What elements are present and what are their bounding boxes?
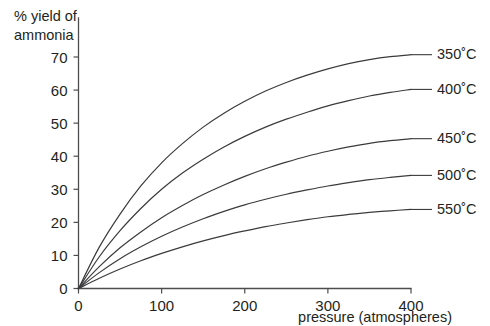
y-tick-label: 10 [51,247,68,264]
y-tick-label: 50 [51,115,68,132]
ammonia-yield-chart: 010203040506070 0100200300400 350˚C400˚C… [0,0,490,326]
y-axis-ticks: 010203040506070 [51,49,79,298]
x-axis-title: pressure (atmospheres) [298,309,452,325]
chart-series-group [79,55,412,289]
x-tick-label: 100 [149,297,174,314]
y-tick-label: 60 [51,82,68,99]
series-curve-500 [79,175,412,288]
y-axis-title-line2: ammonia [14,27,75,43]
x-tick-label: 0 [74,297,82,314]
y-tick-label: 0 [59,280,67,297]
y-tick-label: 40 [51,148,68,165]
series-label-group: 350˚C400˚C450˚C500˚C550˚C [411,46,477,217]
y-axis-title-line1: % yield of [14,8,78,24]
y-tick-label: 30 [51,181,68,198]
y-tick-label: 70 [51,49,68,66]
series-label-500: 500˚C [437,167,477,183]
series-label-350: 350˚C [437,46,477,62]
x-tick-label: 200 [232,297,257,314]
series-label-450: 450˚C [437,130,477,146]
series-label-550: 550˚C [437,201,477,217]
series-label-400: 400˚C [437,81,477,97]
chart-axes [78,18,411,289]
chart-canvas: 010203040506070 0100200300400 350˚C400˚C… [0,0,490,326]
series-curve-400 [79,89,412,288]
y-tick-label: 20 [51,214,68,231]
